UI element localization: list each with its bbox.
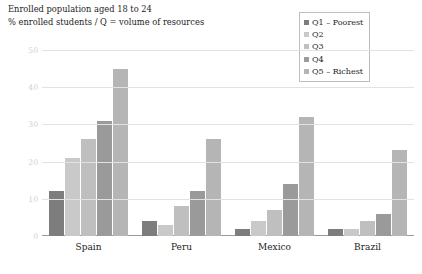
bar-group (228, 50, 321, 236)
bar-group (321, 50, 414, 236)
bar-group (135, 50, 228, 236)
bar-groups (42, 50, 414, 236)
legend-item[interactable]: Q1 – Poorest (304, 16, 363, 28)
bar[interactable] (360, 221, 375, 236)
bar[interactable] (283, 184, 298, 236)
chart-subtitle: % enrolled students / Q = volume of reso… (8, 16, 204, 29)
bar[interactable] (142, 221, 157, 236)
legend-item-label: Q1 – Poorest (312, 18, 363, 27)
legend-item-label: Q2 (312, 30, 324, 39)
bar[interactable] (97, 121, 112, 236)
bar[interactable] (113, 69, 128, 236)
chart-title: Enrolled population aged 18 to 24 (8, 3, 204, 16)
gridline (42, 87, 414, 88)
y-axis-tick-label: 10 (28, 194, 38, 203)
bar[interactable] (235, 229, 250, 236)
gridline (42, 50, 414, 51)
x-axis-label: Mexico (228, 242, 321, 252)
bar[interactable] (267, 210, 282, 236)
bar[interactable] (251, 221, 266, 236)
y-axis-tick-label: 20 (28, 157, 38, 166)
bar-group-bars (321, 50, 414, 236)
bar[interactable] (81, 139, 96, 236)
x-axis-labels: SpainPeruMexicoBrazil (42, 242, 414, 252)
bar[interactable] (299, 117, 314, 236)
bar-group-bars (135, 50, 228, 236)
legend-item[interactable]: Q2 (304, 28, 363, 40)
y-axis-tick-label: 50 (28, 46, 38, 55)
plot-area: 01020304050 (42, 50, 414, 236)
bar-group-bars (42, 50, 135, 236)
bar[interactable] (174, 206, 189, 236)
gridline (42, 162, 414, 163)
bar[interactable] (206, 139, 221, 236)
bar[interactable] (158, 225, 173, 236)
bar[interactable] (344, 229, 359, 236)
x-axis-label: Spain (42, 242, 135, 252)
legend-swatch-icon (304, 44, 309, 49)
bar[interactable] (328, 229, 343, 236)
y-axis-tick-label: 0 (33, 232, 38, 241)
bar-group-bars (228, 50, 321, 236)
bar[interactable] (65, 158, 80, 236)
chart-container: Enrolled population aged 18 to 24 % enro… (0, 0, 422, 274)
gridline (42, 199, 414, 200)
legend-swatch-icon (304, 20, 309, 25)
y-axis-tick-label: 40 (28, 83, 38, 92)
x-axis-label: Brazil (321, 242, 414, 252)
y-axis-tick-label: 30 (28, 120, 38, 129)
bar[interactable] (376, 214, 391, 236)
chart-title-block: Enrolled population aged 18 to 24 % enro… (8, 3, 204, 28)
x-axis-label: Peru (135, 242, 228, 252)
legend-swatch-icon (304, 32, 309, 37)
bar[interactable] (392, 150, 407, 236)
bar-group (42, 50, 135, 236)
gridline (42, 124, 414, 125)
